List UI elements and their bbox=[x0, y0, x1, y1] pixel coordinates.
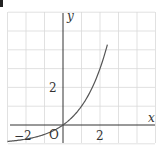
curve-series bbox=[8, 45, 108, 142]
x-tick-label-neg2: −2 bbox=[14, 129, 32, 143]
axes bbox=[10, 13, 155, 143]
x-axis-label: x bbox=[148, 111, 155, 125]
x-tick-label-2: 2 bbox=[96, 129, 104, 143]
y-axis-label: y bbox=[66, 9, 74, 23]
grid bbox=[8, 12, 156, 144]
y-tick-label-2: 2 bbox=[49, 81, 57, 95]
origin-label: O bbox=[49, 128, 59, 142]
function-graph: x y O −2 2 2 bbox=[0, 0, 162, 145]
